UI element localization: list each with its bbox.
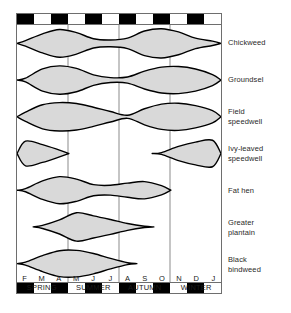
- species-band-ivy-leaved-speedwell-part2: [152, 140, 221, 168]
- species-label-line: Groundsel: [228, 75, 290, 85]
- species-bands-svg: [17, 25, 221, 282]
- chart-frame: [16, 13, 222, 294]
- axis-season-autumn: AUTUMN: [119, 281, 171, 294]
- month-cell-top-d-10: [187, 14, 204, 24]
- axis-season-spring: SPRING: [16, 281, 68, 294]
- species-label-line: Black: [228, 255, 290, 265]
- month-cell-top-a-6: [119, 14, 136, 24]
- species-label-line: Chickweed: [228, 38, 290, 48]
- axis-season-winter: WINTER: [171, 281, 223, 294]
- species-label-column: ChickweedGroundselFieldspeedwellIvy-leav…: [228, 13, 291, 272]
- month-cell-top-j-5: [102, 14, 119, 24]
- species-label-groundsel: Groundsel: [228, 75, 290, 85]
- month-cell-top-a-2: [51, 14, 68, 24]
- species-label-line: plantain: [228, 228, 290, 238]
- species-label-line: bindweed: [228, 265, 290, 275]
- species-label-ivy-leaved-speedwell: Ivy-leavedspeedwell: [228, 144, 290, 163]
- month-bar-top: [17, 14, 221, 25]
- species-label-line: Ivy-leaved: [228, 144, 290, 154]
- species-label-greater-plantain: Greaterplantain: [228, 218, 290, 237]
- month-cell-top-s-7: [136, 14, 153, 24]
- month-cell-top-m-1: [34, 14, 51, 24]
- species-label-line: speedwell: [228, 117, 290, 127]
- species-label-line: Fat hen: [228, 186, 290, 196]
- species-band-greater-plantain: [33, 213, 154, 242]
- month-cell-top-o-8: [153, 14, 170, 24]
- species-label-line: Greater: [228, 218, 290, 228]
- weed-seasonality-chart: ChickweedGroundselFieldspeedwellIvy-leav…: [0, 0, 291, 313]
- species-band-ivy-leaved-speedwell-part1: [17, 141, 69, 166]
- species-label-chickweed: Chickweed: [228, 38, 290, 48]
- plot-area: [17, 25, 221, 282]
- month-cell-top-j-4: [85, 14, 102, 24]
- species-label-field-speedwell: Fieldspeedwell: [228, 107, 290, 126]
- species-label-black-bindweed: Blackbindweed: [228, 255, 290, 274]
- month-cell-top-n-9: [170, 14, 187, 24]
- species-band-fat-hen: [17, 177, 171, 204]
- month-cell-top-j-11: [204, 14, 221, 24]
- axis-season-labels: SPRINGSUMMERAUTUMNWINTER: [16, 281, 222, 294]
- species-label-fat-hen: Fat hen: [228, 186, 290, 196]
- species-label-line: Field: [228, 107, 290, 117]
- axis-season-summer: SUMMER: [68, 281, 120, 294]
- month-cell-top-f-0: [17, 14, 34, 24]
- species-label-line: speedwell: [228, 154, 290, 164]
- month-cell-top-m-3: [68, 14, 85, 24]
